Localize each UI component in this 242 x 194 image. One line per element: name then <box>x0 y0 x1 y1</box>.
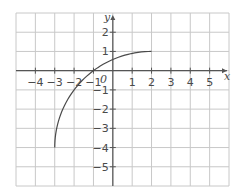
y-tick-label: −5 <box>93 161 109 174</box>
y-tick-label: 1 <box>102 45 109 58</box>
x-axis-label: x <box>224 70 231 83</box>
x-tick-label: −2 <box>66 76 82 89</box>
y-axis-arrow-icon <box>110 15 115 20</box>
x-tick-label: 1 <box>129 76 136 89</box>
x-tick-label: −4 <box>27 76 43 89</box>
y-tick-label: 2 <box>102 26 109 39</box>
x-tick-label: 2 <box>148 76 155 89</box>
origin-label: 0 <box>100 73 107 86</box>
y-axis-label: y <box>103 11 111 24</box>
x-tick-label: 5 <box>206 76 213 89</box>
y-tick-label: −3 <box>93 122 109 135</box>
x-tick-label: −3 <box>47 76 63 89</box>
axes <box>16 15 227 186</box>
x-tick-label: 3 <box>167 76 174 89</box>
y-tick-label: −4 <box>93 142 109 155</box>
grid-lines <box>16 13 229 186</box>
x-tick-label: 4 <box>187 76 194 89</box>
chart: −4−3−2−11234521−1−2−3−4−5 x y 0 <box>0 0 242 194</box>
y-tick-label: −2 <box>93 103 109 116</box>
